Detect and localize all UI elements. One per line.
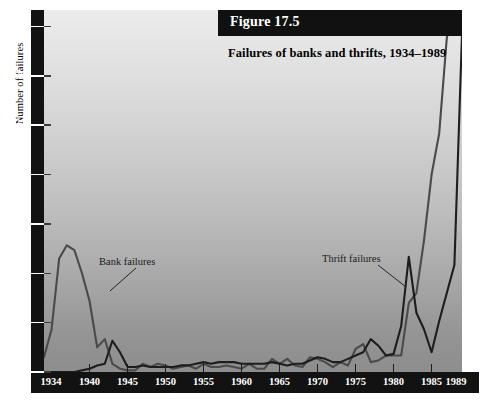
y-tick-stub [44, 75, 51, 77]
x-tick-label: 1934 [31, 376, 71, 387]
bank-label-leader-line [110, 268, 136, 291]
x-tick-mark [431, 364, 433, 372]
y-tick-mark [31, 273, 44, 275]
x-tick-label: 1940 [70, 376, 110, 387]
x-tick-mark [279, 364, 281, 372]
y-tick-label: 150 [4, 118, 28, 129]
y-tick-stub [44, 223, 51, 225]
y-tick-stub [44, 174, 51, 176]
y-tick-stub [44, 273, 51, 275]
y-tick-label: 30 [4, 316, 28, 327]
x-tick-label: 1960 [222, 376, 262, 387]
plot-area [44, 10, 462, 372]
x-tick-label: 1955 [184, 376, 224, 387]
y-tick-mark [31, 174, 44, 176]
thrift-label-leader-line [378, 265, 406, 287]
y-tick-stub [44, 322, 51, 324]
y-tick-label: 120 [4, 168, 28, 179]
x-tick-mark [241, 364, 243, 372]
y-tick-label: 90 [4, 217, 28, 228]
y-tick-stub [44, 26, 51, 28]
x-tick-mark [203, 364, 205, 372]
x-tick-label: 1980 [374, 376, 414, 387]
y-tick-mark [31, 75, 44, 77]
y-tick-stub [44, 124, 51, 126]
x-tick-label: 1975 [336, 376, 376, 387]
chart-lines [44, 10, 462, 372]
x-tick-label: 1950 [146, 376, 186, 387]
y-tick-label: 210 [4, 19, 28, 30]
x-tick-label: 1989 [436, 376, 476, 387]
figure-number-label: Figure 17.5 [230, 14, 300, 30]
x-tick-mark [89, 364, 91, 372]
y-tick-mark [31, 223, 44, 225]
bank-failures-line [44, 10, 462, 370]
x-tick-label: 1970 [298, 376, 338, 387]
x-axis-ticks: 1934194019451950195519601965197019751980… [0, 372, 488, 403]
figure-title: Failures of banks and thrifts, 1934–1989 [228, 46, 446, 61]
x-tick-mark [355, 364, 357, 372]
y-tick-label: 180 [4, 69, 28, 80]
x-tick-mark [393, 364, 395, 372]
figure-17-5: Number of failures 0306090120150180210 1… [0, 0, 488, 403]
x-tick-mark [317, 364, 319, 372]
y-tick-mark [31, 124, 44, 126]
thrift-failures-line [44, 35, 462, 372]
bank-failures-label: Bank failures [99, 256, 155, 267]
figure-number-plate: Figure 17.5 [218, 10, 462, 36]
x-tick-label: 1945 [108, 376, 148, 387]
y-tick-mark [31, 322, 44, 324]
x-tick-label: 1965 [260, 376, 300, 387]
y-tick-label: 60 [4, 266, 28, 277]
x-tick-mark [165, 364, 167, 372]
thrift-failures-label: Thrift failures [322, 253, 381, 264]
y-tick-mark [31, 26, 44, 28]
y-axis-band [31, 10, 44, 372]
x-tick-mark [127, 364, 129, 372]
